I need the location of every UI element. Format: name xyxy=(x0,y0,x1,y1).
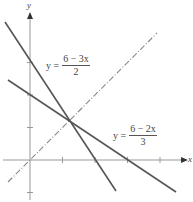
x-axis-label: x xyxy=(188,155,192,164)
numerator: 6 − 3x xyxy=(62,54,90,66)
equation-label-line1: y = 6 − 3x 2 xyxy=(46,54,90,77)
numerator: 6 − 2x xyxy=(129,124,157,136)
equation-lhs: y = xyxy=(46,61,59,71)
y-axis-arrow-icon xyxy=(27,12,33,19)
graph-canvas xyxy=(0,0,193,202)
fraction: 6 − 2x 3 xyxy=(129,124,157,147)
y-axis-label: y xyxy=(27,1,31,10)
equation-label-line2: y = 6 − 2x 3 xyxy=(113,124,157,147)
line-6-minus-3x-over-2 xyxy=(5,22,116,191)
fraction: 6 − 3x 2 xyxy=(62,54,90,77)
denominator: 3 xyxy=(140,136,145,147)
equation-lhs: y = xyxy=(113,131,126,141)
denominator: 2 xyxy=(73,66,78,77)
x-axis-arrow-icon xyxy=(181,157,188,163)
